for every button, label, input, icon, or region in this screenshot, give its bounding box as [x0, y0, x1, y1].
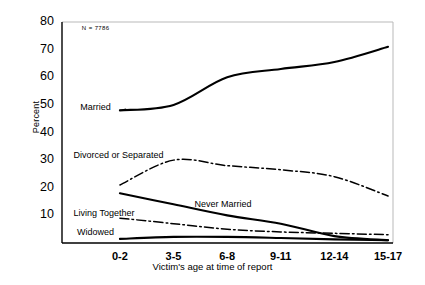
chart-figure: Percent Victim's age at time of report 8…	[0, 0, 425, 285]
series-line-divorced-or-separated	[120, 159, 388, 196]
y-tick-label: 30	[28, 152, 54, 166]
y-tick-label: 60	[28, 69, 54, 83]
y-tick-label: 20	[28, 180, 54, 194]
series-line-living-together	[120, 218, 388, 235]
series-label-widowed: Widowed	[77, 227, 114, 237]
x-tick-label: 12-14	[312, 250, 356, 262]
y-tick-label: 40	[28, 125, 54, 139]
y-tick-label: 10	[28, 207, 54, 221]
series-label-married: Married	[80, 102, 111, 112]
x-tick-label: 9-11	[259, 250, 303, 262]
series-label-never-married: Never Married	[194, 199, 251, 209]
x-axis-title: Victim's age at time of report	[0, 261, 425, 272]
x-tick-label: 6-8	[205, 250, 249, 262]
series-line-married	[120, 47, 388, 111]
sample-size: N = 7786	[82, 25, 110, 31]
line-chart-plot	[0, 0, 425, 285]
series-label-living-together: Living Together	[74, 208, 135, 218]
x-tick-label: 0-2	[98, 250, 142, 262]
series-label-divorced-or-separated: Divorced or Separated	[74, 150, 164, 160]
y-tick-label: 80	[28, 14, 54, 28]
x-tick-label: 3-5	[152, 250, 196, 262]
y-tick-label: 50	[28, 97, 54, 111]
x-tick-label: 15-17	[366, 250, 410, 262]
y-tick-label: 70	[28, 42, 54, 56]
